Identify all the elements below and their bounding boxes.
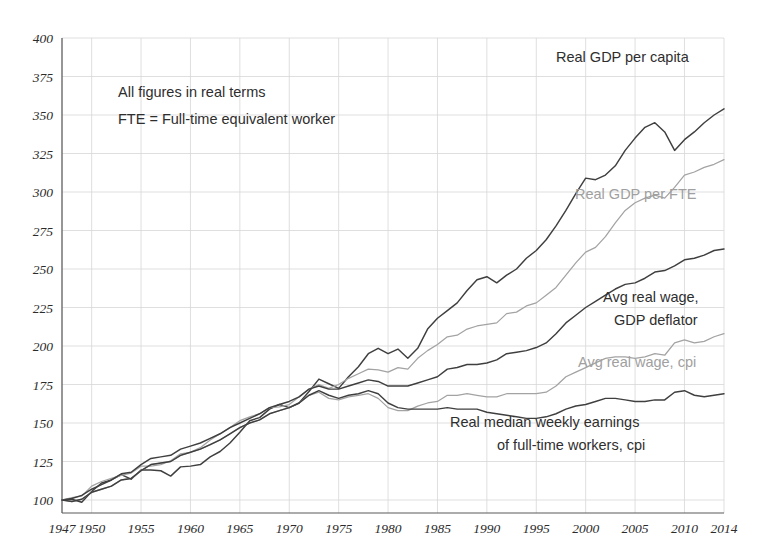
y-tick-100: 100 (33, 493, 54, 508)
x-tick-1985: 1985 (424, 521, 451, 536)
x-tick-2010: 2010 (671, 521, 698, 536)
y-tick-325: 325 (32, 147, 54, 162)
note-fte-definition: FTE = Full-time equivalent worker (118, 111, 335, 127)
series-label-real-gdp-per-fte: Real GDP per FTE (575, 186, 697, 202)
y-tick-250: 250 (33, 262, 54, 277)
series-label-avg-real-wage-cpi: Avg real wage, cpi (578, 354, 696, 370)
x-axis-tick-labels: 1947195019551960196519701975198019851990… (49, 521, 738, 536)
horizontal-gridlines (62, 38, 724, 500)
series-label-real-median-weekly-earnings-line1: Real median weekly earnings (450, 414, 639, 430)
y-tick-300: 300 (32, 185, 54, 200)
x-tick-1950: 1950 (78, 521, 105, 536)
x-tick-2005: 2005 (622, 521, 649, 536)
y-tick-350: 350 (32, 108, 54, 123)
series-label-avg-real-wage-gdp-deflator-line1: Avg real wage, (603, 289, 699, 305)
x-tick-1995: 1995 (523, 521, 550, 536)
x-tick-2014: 2014 (711, 521, 738, 536)
y-tick-225: 225 (33, 301, 54, 316)
series-label-avg-real-wage-gdp-deflator-line2: GDP deflator (614, 312, 698, 328)
y-tick-175: 175 (33, 378, 54, 393)
y-tick-150: 150 (33, 416, 54, 431)
x-tick-1965: 1965 (226, 521, 253, 536)
y-tick-400: 400 (33, 31, 54, 46)
x-tick-1990: 1990 (473, 521, 500, 536)
x-tick-1980: 1980 (375, 521, 402, 536)
line-chart: 400375350325300275250225200175150125100 … (0, 0, 764, 560)
y-axis-tick-labels: 400375350325300275250225200175150125100 (32, 31, 54, 508)
x-tick-2000: 2000 (572, 521, 599, 536)
x-tick-1947: 1947 (49, 521, 77, 536)
y-tick-275: 275 (33, 224, 54, 239)
y-tick-200: 200 (33, 339, 54, 354)
chart-container: 400375350325300275250225200175150125100 … (0, 0, 764, 560)
note-real-terms: All figures in real terms (118, 84, 265, 100)
x-tick-1955: 1955 (128, 521, 155, 536)
y-tick-125: 125 (33, 455, 54, 470)
x-tick-1970: 1970 (276, 521, 303, 536)
x-tick-1975: 1975 (325, 521, 352, 536)
series-label-real-median-weekly-earnings-line2: of full-time workers, cpi (497, 437, 645, 453)
y-tick-375: 375 (32, 70, 54, 85)
x-tick-1960: 1960 (177, 521, 204, 536)
series-label-real-gdp-per-capita: Real GDP per capita (556, 49, 690, 65)
